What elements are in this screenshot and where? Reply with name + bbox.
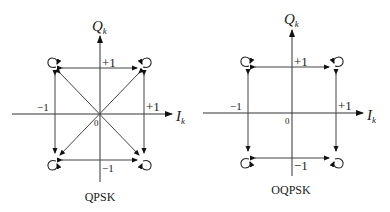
- oqpsk-diagram: Qk Ik +1 −1 −1 +1 0 OQPSK: [203, 11, 377, 197]
- q-axis-label: Qk: [284, 11, 300, 29]
- oqpsk-caption: OQPSK: [271, 183, 311, 197]
- self-loop-tl: [241, 57, 250, 66]
- tick-bottom: −1: [102, 162, 114, 174]
- origin-label: 0: [94, 118, 99, 128]
- self-loop-tr: [334, 57, 343, 66]
- origin-label: 0: [285, 116, 290, 126]
- self-loop-tr: [142, 58, 151, 67]
- tick-right: +1: [146, 99, 160, 114]
- constellation-diagrams: Qk Ik +1 −1 −1 +1 0 QPSK Qk Ik +1 −1 −1 …: [0, 0, 390, 212]
- i-axis-label: Ik: [366, 107, 377, 125]
- self-loop-br: [142, 161, 151, 170]
- self-loop-bl: [241, 159, 250, 168]
- tick-left: −1: [230, 100, 242, 112]
- qpsk-diagram: Qk Ik +1 −1 −1 +1 0 QPSK: [12, 18, 186, 204]
- self-loop-br: [334, 159, 343, 168]
- self-loop-tl: [48, 58, 57, 67]
- q-axis-label: Qk: [92, 18, 108, 36]
- self-loop-bl: [48, 161, 57, 170]
- tick-left: −1: [37, 101, 49, 113]
- i-axis-label: Ik: [175, 108, 186, 126]
- tick-top: +1: [294, 54, 308, 69]
- tick-right: +1: [338, 98, 352, 113]
- qpsk-caption: QPSK: [85, 190, 116, 204]
- tick-top: +1: [102, 55, 116, 70]
- tick-bottom: −1: [294, 158, 308, 173]
